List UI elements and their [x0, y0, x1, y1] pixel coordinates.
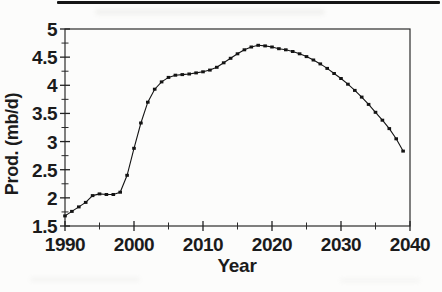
data-point-marker — [118, 191, 122, 194]
data-point-marker — [305, 55, 309, 58]
data-point-marker — [63, 214, 67, 217]
y-tick-label: 3 — [47, 132, 57, 151]
data-point-marker — [360, 96, 364, 99]
data-point-marker — [312, 59, 316, 62]
y-tick-label: 5 — [47, 20, 57, 39]
data-point-marker — [174, 74, 178, 77]
x-tick-label: 2020 — [242, 235, 302, 254]
data-point-marker — [291, 50, 295, 53]
x-tick-label: 1990 — [35, 235, 95, 254]
x-tick-label: 2040 — [380, 235, 440, 254]
y-tick-label: 2.5 — [32, 160, 57, 179]
scanned-chart-figure: 5 4.5 4 3.5 3 2.5 2 1.5 1990 2000 2010 2… — [0, 0, 442, 292]
data-point-marker — [208, 69, 212, 72]
data-point-marker — [215, 66, 219, 69]
data-point-marker — [236, 52, 240, 55]
data-point-marker — [353, 89, 357, 92]
data-point-marker — [243, 48, 247, 51]
data-point-marker — [132, 147, 136, 150]
data-point-marker — [139, 122, 143, 125]
y-tick-label: 4 — [47, 76, 57, 95]
data-point-marker — [125, 174, 129, 177]
x-tick-label: 2000 — [104, 235, 164, 254]
data-point-marker — [381, 119, 385, 122]
x-tick-label: 2010 — [173, 235, 233, 254]
plot-border — [65, 29, 410, 226]
data-point-marker — [153, 88, 157, 91]
data-point-marker — [229, 57, 233, 60]
data-point-marker — [401, 150, 405, 153]
data-point-marker — [91, 194, 95, 197]
data-point-marker — [187, 73, 191, 76]
data-point-marker — [346, 83, 350, 86]
data-point-marker — [388, 127, 392, 130]
data-point-marker — [277, 47, 281, 50]
data-point-marker — [256, 44, 260, 47]
data-point-marker — [263, 44, 267, 47]
data-point-marker — [77, 205, 81, 208]
data-point-marker — [319, 62, 323, 65]
data-point-marker — [374, 111, 378, 114]
data-point-marker — [298, 52, 302, 55]
x-axis-title: Year — [218, 256, 257, 275]
y-tick-label: 3.5 — [32, 104, 57, 123]
data-point-marker — [339, 77, 343, 80]
data-point-marker — [201, 70, 205, 73]
data-point-marker — [250, 46, 254, 49]
data-point-marker — [112, 193, 116, 196]
data-point-marker — [284, 48, 288, 51]
data-point-marker — [270, 46, 274, 49]
data-point-marker — [367, 103, 371, 106]
data-point-marker — [98, 192, 102, 195]
data-point-marker — [325, 67, 329, 70]
data-point-marker — [181, 73, 185, 76]
data-point-marker — [332, 72, 336, 75]
data-point-marker — [146, 101, 150, 104]
x-tick-label: 2030 — [311, 235, 371, 254]
data-point-marker — [167, 76, 171, 79]
y-tick-label: 4.5 — [32, 48, 57, 67]
y-tick-label: 2 — [47, 188, 57, 207]
production-line — [65, 45, 403, 216]
data-point-marker — [105, 193, 109, 196]
y-axis-title: Prod. (mb/d) — [3, 93, 21, 195]
data-point-marker — [70, 210, 74, 213]
data-point-marker — [222, 61, 226, 64]
data-point-marker — [84, 201, 88, 204]
y-tick-label: 1.5 — [32, 217, 57, 236]
data-point-marker — [394, 137, 398, 140]
data-point-marker — [194, 71, 198, 74]
data-point-marker — [160, 80, 164, 83]
